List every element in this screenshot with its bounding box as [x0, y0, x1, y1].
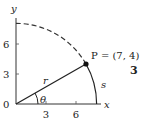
arc-s — [86, 64, 97, 104]
polar-diagram: 3636 x y 0 P = (7, 4) 3 r θ s — [0, 0, 141, 122]
point-p-label: P = (7, 4) — [91, 50, 139, 61]
angle-theta-arc — [35, 93, 38, 104]
origin-label: 0 — [3, 99, 9, 110]
radius-label: r — [43, 75, 49, 86]
arc-label: s — [101, 79, 106, 90]
y-axis-label: y — [10, 3, 17, 14]
figure-number: 3 — [130, 64, 138, 77]
y-tick-label: 6 — [3, 39, 9, 50]
angle-label: θ — [40, 94, 46, 105]
x-axis-label: x — [104, 99, 110, 110]
point-p — [83, 61, 88, 66]
radius-line — [16, 64, 86, 104]
x-tick-label: 3 — [43, 109, 49, 120]
x-tick-label: 6 — [73, 109, 79, 120]
y-tick-label: 3 — [3, 69, 9, 80]
dashed-circle-arc — [16, 23, 86, 64]
